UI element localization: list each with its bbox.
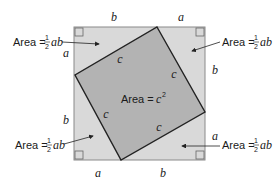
svg-text:2: 2 xyxy=(162,91,166,98)
svg-text:2: 2 xyxy=(45,43,49,50)
inner-side-label-bottom: c xyxy=(156,120,162,134)
svg-text:Area =: Area = xyxy=(13,36,46,48)
svg-text:1: 1 xyxy=(254,34,258,41)
svg-text:ab: ab xyxy=(260,35,272,49)
svg-text:1: 1 xyxy=(45,34,49,41)
svg-text:1: 1 xyxy=(254,137,258,144)
side-label-bottom-a: a xyxy=(95,166,101,180)
center-area-label: Area = c 2 xyxy=(121,91,166,106)
side-label-top-b: b xyxy=(111,10,117,24)
svg-text:ab: ab xyxy=(260,138,272,152)
svg-text:Area =: Area = xyxy=(15,139,48,151)
svg-text:ab: ab xyxy=(53,138,65,152)
side-label-top-a: a xyxy=(178,10,184,24)
svg-text:Area =: Area = xyxy=(222,139,255,151)
svg-text:1: 1 xyxy=(47,137,51,144)
svg-text:2: 2 xyxy=(254,43,258,50)
inner-side-label-right: c xyxy=(171,67,177,81)
inner-side-label-left: c xyxy=(103,107,109,121)
svg-text:Area =: Area = xyxy=(222,36,255,48)
svg-text:2: 2 xyxy=(47,146,51,153)
pythagorean-diagram: b a a b b a a b c c c c Area = c 2 Area … xyxy=(0,0,278,186)
side-label-right-b: b xyxy=(212,63,218,77)
inner-side-label-top: c xyxy=(117,52,123,66)
side-label-bottom-b: b xyxy=(160,166,166,180)
side-label-right-a: a xyxy=(212,129,218,143)
side-label-left-b: b xyxy=(63,113,69,127)
side-label-left-a: a xyxy=(63,46,69,60)
svg-text:Area =: Area = xyxy=(121,93,154,105)
svg-text:ab: ab xyxy=(51,35,63,49)
svg-text:2: 2 xyxy=(254,146,258,153)
